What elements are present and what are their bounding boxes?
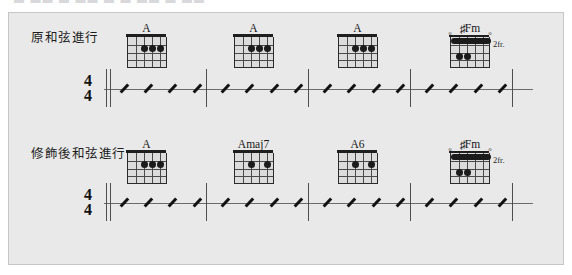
fretboard-grid	[450, 37, 490, 68]
finger-dot	[149, 45, 156, 52]
fretboard-wrap	[234, 37, 274, 68]
rhythm-slash	[167, 80, 177, 97]
finger-dot	[352, 161, 359, 168]
fret-position-label: 2fr.	[493, 39, 505, 49]
rhythm-slash	[346, 80, 356, 97]
rhythm-slash	[143, 194, 153, 211]
finger-dot	[248, 45, 255, 52]
fret-line	[339, 53, 377, 54]
rhythm-slash	[322, 194, 332, 211]
finger-dot	[157, 161, 164, 168]
time-signature-numerator: 4	[77, 73, 99, 88]
fret-line	[339, 169, 377, 170]
rhythm-slash	[192, 194, 202, 211]
fretboard-wrap	[127, 37, 167, 68]
fret-line	[339, 60, 377, 61]
chord-diagram: A	[114, 21, 180, 68]
fretboard-wrap: oo 2fr.	[450, 37, 490, 68]
fretboard-grid	[127, 153, 167, 184]
barline-end	[512, 69, 513, 107]
rhythm-slash	[424, 80, 434, 97]
rhythm-slash	[167, 194, 177, 211]
barline-start	[106, 69, 107, 107]
rhythm-slash	[473, 80, 483, 97]
system-label-original: 原和弦進行	[31, 27, 99, 46]
barline-start	[106, 183, 107, 221]
fretboard-grid	[234, 153, 274, 184]
rhythm-slash	[119, 80, 129, 97]
fret-line	[451, 60, 489, 61]
finger-dot	[256, 45, 263, 52]
rhythm-slash	[269, 80, 279, 97]
fret-line	[451, 161, 489, 162]
chord-chart-panel: 原和弦進行 A A A	[8, 12, 564, 265]
finger-dot	[368, 161, 375, 168]
finger-dot	[157, 45, 164, 52]
time-signature-numerator: 4	[77, 187, 99, 202]
chord-diagram: ♯Fm oo 2fr.	[437, 21, 503, 68]
fret-line	[128, 169, 166, 170]
time-signature: 4 4	[77, 187, 99, 217]
finger-dot	[141, 45, 148, 52]
system-label-embellished: 修飾後和弦進行	[31, 143, 126, 162]
fretboard-grid	[234, 37, 274, 68]
chord-chart-root: ▬ ▬▬ ▬ ▬▬ ▬ ▬ ▬▬ ▬ ▬▬ 原和弦進行 A A	[0, 0, 572, 275]
rhythm-slash	[395, 194, 405, 211]
rhythm-slash	[371, 194, 381, 211]
fret-line	[235, 169, 273, 170]
barline	[410, 183, 411, 221]
barline	[308, 183, 309, 221]
finger-dot	[464, 169, 471, 176]
finger-dot	[464, 53, 471, 60]
rhythm-slash	[473, 194, 483, 211]
scan-top-sliver: ▬ ▬▬ ▬ ▬▬ ▬ ▬ ▬▬ ▬ ▬▬	[0, 0, 572, 7]
fret-line	[235, 53, 273, 54]
finger-dot	[360, 45, 367, 52]
chord-diagram: Amaj7	[221, 137, 287, 184]
rhythm-slash	[192, 80, 202, 97]
staff-original: 4 4	[9, 67, 563, 113]
rhythm-slash	[220, 194, 230, 211]
rhythm-slash	[497, 194, 507, 211]
finger-dot	[368, 45, 375, 52]
chord-diagram: A	[325, 21, 391, 68]
barline-start-inner	[110, 183, 111, 221]
fret-line	[235, 60, 273, 61]
rhythm-slash	[448, 194, 458, 211]
fretboard-grid	[338, 153, 378, 184]
rhythm-slash	[497, 80, 507, 97]
chord-diagram: A	[114, 137, 180, 184]
rhythm-slash	[293, 80, 303, 97]
fret-position-label: 2fr.	[493, 155, 505, 165]
finger-dot	[456, 169, 463, 176]
time-signature: 4 4	[77, 73, 99, 103]
rhythm-slash	[322, 80, 332, 97]
finger-dot	[456, 53, 463, 60]
finger-dot	[264, 45, 271, 52]
time-signature-denominator: 4	[77, 202, 99, 217]
staff-embellished: 4 4	[9, 181, 563, 227]
barline	[410, 69, 411, 107]
finger-dot	[141, 161, 148, 168]
rhythm-slash	[244, 80, 254, 97]
fretboard-wrap	[338, 153, 378, 184]
scan-sliver-text: ▬ ▬▬ ▬ ▬▬ ▬ ▬ ▬▬ ▬ ▬▬	[14, 0, 206, 5]
barline	[206, 69, 207, 107]
rhythm-slash	[220, 80, 230, 97]
rhythm-slash	[293, 194, 303, 211]
barline-start-inner	[110, 69, 111, 107]
fret-line	[339, 176, 377, 177]
fret-line	[451, 45, 489, 46]
barre-bar	[451, 38, 491, 44]
fret-line	[128, 53, 166, 54]
rhythm-slash	[269, 194, 279, 211]
rhythm-slash	[346, 194, 356, 211]
time-signature-denominator: 4	[77, 88, 99, 103]
fret-line	[128, 60, 166, 61]
fretboard-wrap: oo 2fr.	[450, 153, 490, 184]
rhythm-slash	[424, 194, 434, 211]
chord-diagram: A	[221, 21, 287, 68]
rhythm-slash	[244, 194, 254, 211]
fret-line	[128, 176, 166, 177]
rhythm-slash	[119, 194, 129, 211]
